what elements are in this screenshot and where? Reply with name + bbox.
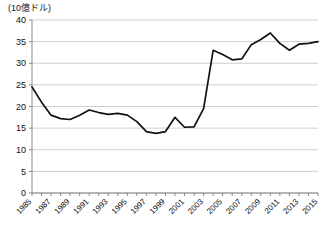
y-tick-label: 30 xyxy=(16,58,26,68)
y-tick-label: 15 xyxy=(16,123,26,133)
x-tick-label: 1995 xyxy=(110,197,129,216)
y-tick-label: 25 xyxy=(16,80,26,90)
x-tick-label: 2015 xyxy=(300,197,319,216)
x-tick-label: 1991 xyxy=(72,197,91,216)
x-tick-label: 1987 xyxy=(34,197,53,216)
line-chart-plot: 0510152025303540 19851987198919911993199… xyxy=(0,0,333,226)
x-tick-label: 2005 xyxy=(205,197,224,216)
x-tick-label: 1989 xyxy=(53,197,72,216)
x-axis-tick-marks xyxy=(32,193,318,196)
x-axis-tick-labels: 1985198719891991199319951997199920012003… xyxy=(14,197,319,216)
x-tick-label: 1997 xyxy=(129,197,148,216)
x-tick-label: 2003 xyxy=(186,197,205,216)
y-tick-label: 35 xyxy=(16,37,26,47)
x-tick-label: 2013 xyxy=(281,197,300,216)
x-tick-label: 2009 xyxy=(243,197,262,216)
chart-figure: (10億ドル) 0510152025303540 198519871989199… xyxy=(0,0,333,226)
y-tick-label: 5 xyxy=(21,167,26,177)
x-tick-label: 1993 xyxy=(91,197,110,216)
x-tick-label: 1985 xyxy=(14,197,33,216)
data-series-line xyxy=(32,33,318,133)
x-tick-label: 1999 xyxy=(148,197,167,216)
y-tick-label: 10 xyxy=(16,145,26,155)
y-tick-label: 40 xyxy=(16,15,26,25)
y-tick-label: 20 xyxy=(16,102,26,112)
x-tick-label: 2011 xyxy=(263,197,282,216)
y-tick-label: 0 xyxy=(21,188,26,198)
x-tick-label: 2001 xyxy=(167,197,186,216)
gridlines-group xyxy=(29,20,318,193)
y-axis-tick-labels: 0510152025303540 xyxy=(16,15,26,198)
x-tick-label: 2007 xyxy=(224,197,243,216)
